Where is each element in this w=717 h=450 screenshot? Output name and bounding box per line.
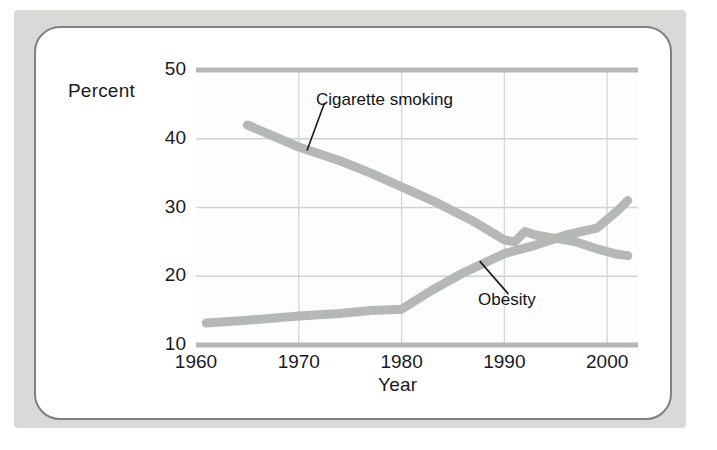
series-annotation-obesity: Obesity bbox=[478, 290, 536, 310]
x-tick-label: 2000 bbox=[577, 351, 637, 373]
y-tick-label: 50 bbox=[148, 58, 186, 80]
figure-page: Percent Year 1020304050 1960197019801990… bbox=[0, 0, 717, 450]
y-tick-label: 20 bbox=[148, 264, 186, 286]
y-axis-title: Percent bbox=[68, 80, 135, 102]
y-tick-label: 40 bbox=[148, 127, 186, 149]
x-axis-title: Year bbox=[378, 374, 417, 396]
y-tick-label: 30 bbox=[148, 196, 186, 218]
x-tick-label: 1970 bbox=[269, 351, 329, 373]
series-annotation-cigarette-smoking: Cigarette smoking bbox=[316, 90, 453, 110]
chart-plot-area bbox=[0, 0, 717, 450]
x-tick-label: 1980 bbox=[372, 351, 432, 373]
x-tick-label: 1990 bbox=[474, 351, 534, 373]
chart-figure: Percent Year 1020304050 1960197019801990… bbox=[0, 0, 717, 450]
x-tick-label: 1960 bbox=[166, 351, 226, 373]
